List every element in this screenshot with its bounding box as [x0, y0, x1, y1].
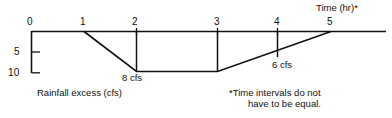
x-axis-title: Time (hr)* [316, 3, 358, 14]
y-tick-label-5: 5 [14, 46, 20, 57]
value-label-8cfs: 8 cfs [122, 73, 142, 84]
x-tick-label-3: 3 [214, 16, 220, 27]
rainfall-excess-caption: Rainfall excess (cfs) [37, 88, 122, 99]
value-label-6cfs: 6 cfs [272, 60, 292, 71]
rainfall-excess-trace [84, 32, 331, 72]
x-tick-label-0: 0 [27, 16, 33, 27]
y-tick-label-10: 10 [8, 67, 19, 78]
x-tick-label-2: 2 [132, 16, 138, 27]
hydrograph-figure: 0 1 2 3 4 5 5 10 Time (hr)* 8 cfs 6 cfs … [0, 0, 392, 118]
x-tick-label-1: 1 [80, 16, 86, 27]
x-tick-label-4: 4 [274, 16, 280, 27]
footnote-line-2: have to be equal. [229, 99, 340, 110]
x-tick-label-5: 5 [327, 16, 333, 27]
